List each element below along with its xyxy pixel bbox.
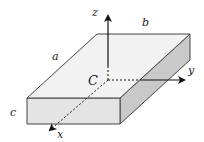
label-x: x	[57, 128, 64, 141]
block-front-face	[27, 98, 120, 124]
block-diagram: z b a C y c x	[0, 0, 204, 142]
label-c: c	[10, 106, 16, 119]
label-z: z	[91, 6, 98, 19]
label-y: y	[187, 64, 195, 77]
label-b: b	[142, 16, 149, 29]
label-a: a	[52, 50, 59, 63]
label-center-C: C	[88, 73, 98, 88]
